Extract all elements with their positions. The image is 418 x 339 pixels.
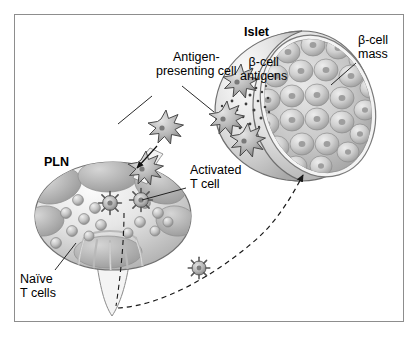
label-beta-cell-mass: β-cell mass <box>358 33 388 61</box>
leader-apc-islet <box>182 86 214 112</box>
label-pln: PLN <box>44 155 69 169</box>
label-islet: Islet <box>244 25 269 39</box>
label-naive-t-cells: Naïve T cells <box>20 272 56 300</box>
label-beta-cell-antigens: β-cell antigens <box>240 55 287 83</box>
label-antigen-presenting-cell: Antigen- presenting cell <box>156 50 237 78</box>
leader-apc-migrating <box>118 96 152 124</box>
label-activated-t-cell: Activated T cell <box>190 163 241 191</box>
figure-canvas: Antigen- presenting cell Islet β-cell an… <box>0 0 418 339</box>
